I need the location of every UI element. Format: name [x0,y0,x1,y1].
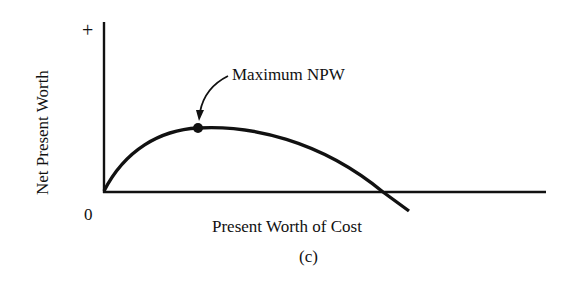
annotation-arrow [200,76,228,112]
arrow-head-icon [196,110,204,121]
x-axis-label: Present Worth of Cost [212,217,362,236]
maximum-point-marker [193,123,203,133]
y-axis-plus-label: + [82,19,93,41]
npw-curve [104,128,409,211]
y-axis-label: Net Present Worth [33,70,52,195]
chart-figure: Maximum NPW + 0 Net Present Worth Presen… [0,0,574,281]
figure-caption: (c) [299,247,318,266]
origin-label: 0 [84,205,93,224]
annotation-label: Maximum NPW [232,65,346,84]
